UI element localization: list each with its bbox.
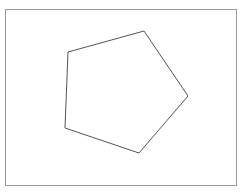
pentagon-figure <box>0 0 249 196</box>
drawing-canvas <box>0 0 249 196</box>
border-frame-rect <box>5 9 236 185</box>
